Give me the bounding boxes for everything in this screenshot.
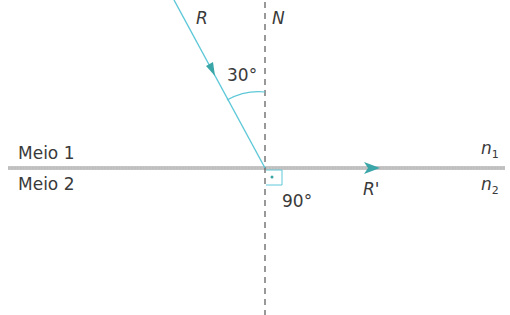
incidence-angle-arc: [227, 92, 265, 100]
incidence-angle-label: 30°: [227, 67, 257, 84]
n1-subscript: 1: [492, 148, 499, 161]
medium-1-label: Meio 1: [18, 145, 74, 162]
right-angle-marker: [266, 170, 282, 185]
n2-base: n: [481, 174, 492, 194]
n1-base: n: [481, 138, 492, 158]
n1-label: n1: [481, 140, 499, 157]
n2-label: n2: [481, 176, 499, 193]
incident-ray-arrow-icon: [206, 62, 215, 76]
interface-line: [8, 167, 505, 169]
n2-subscript: 2: [492, 184, 499, 197]
normal-label: N: [272, 10, 285, 27]
refracted-ray-label: R': [363, 181, 380, 198]
medium-2-label: Meio 2: [18, 176, 74, 193]
refraction-diagram: [0, 0, 510, 315]
right-angle-label: 90°: [282, 193, 312, 210]
incident-ray-label: R: [196, 10, 208, 27]
